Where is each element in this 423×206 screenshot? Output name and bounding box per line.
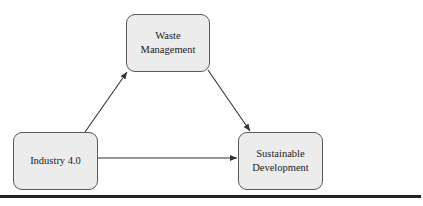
node-label-line2: Development: [252, 161, 309, 175]
node-label: Waste Management: [131, 29, 205, 57]
separator-line: [0, 195, 421, 198]
edge-industry-to-waste: [85, 72, 127, 132]
edge-waste-to-sustainable: [208, 70, 250, 131]
node-industry-4-0: Industry 4.0: [13, 132, 98, 190]
node-label-line1: Sustainable: [256, 147, 304, 161]
node-waste-management: Waste Management: [126, 14, 210, 72]
node-label: Industry 4.0: [30, 154, 81, 168]
diagram-canvas: Waste Management Industry 4.0 Sustainabl…: [0, 0, 423, 206]
node-sustainable-development: Sustainable Development: [238, 132, 323, 190]
